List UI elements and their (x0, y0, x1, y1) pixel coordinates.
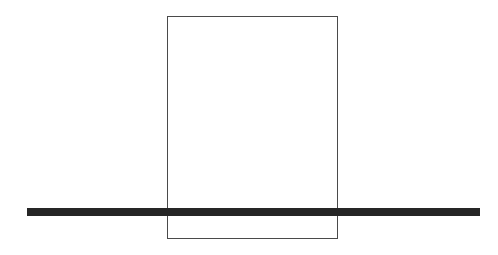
rectangle-outline (167, 16, 338, 239)
horizontal-bar (27, 208, 480, 216)
diagram-canvas (0, 0, 498, 255)
